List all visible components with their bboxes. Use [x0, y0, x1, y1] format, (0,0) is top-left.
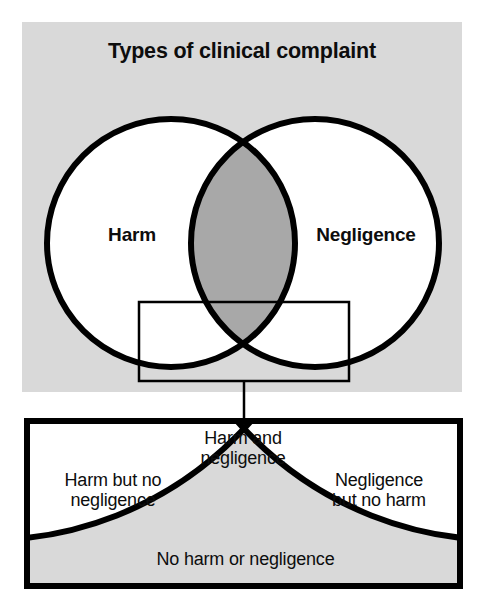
detail-both-label: Harm and negligence: [168, 428, 318, 468]
detail-negligence-only-label-line2: but no harm: [300, 490, 458, 510]
detail-harm-only-label-line1: Harm but no: [33, 470, 193, 490]
detail-negligence-only-label: Negligence but no harm: [300, 470, 458, 510]
harm-circle-label: Harm: [96, 224, 168, 246]
detail-both-label-line1: Harm and: [168, 428, 318, 448]
detail-neither-label: No harm or negligence: [33, 549, 458, 569]
venn-diagram-svg: [0, 0, 484, 604]
detail-harm-only-label: Harm but no negligence: [33, 470, 193, 510]
detail-both-label-line2: negligence: [168, 448, 318, 468]
detail-harm-only-label-line2: negligence: [33, 490, 193, 510]
negligence-circle-label: Negligence: [296, 224, 436, 246]
detail-negligence-only-label-line1: Negligence: [300, 470, 458, 490]
venn-figure: Types of clinical complaint: [0, 0, 484, 604]
